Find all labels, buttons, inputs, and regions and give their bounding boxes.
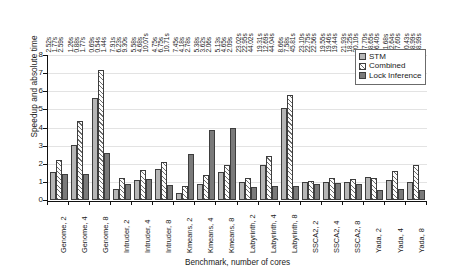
y-tick-label: 2 xyxy=(30,160,43,168)
bar-combined xyxy=(287,95,293,200)
bar-lock-inference xyxy=(314,184,320,200)
bar-lock-inference xyxy=(188,154,194,200)
category-label: Intruder, 4 xyxy=(144,220,151,253)
chart-container: Speedup and absolute time 2.52s1.77s2.59… xyxy=(0,0,475,279)
y-tick xyxy=(43,146,47,147)
bar-lock-inference xyxy=(62,174,68,200)
bar-lock-inference xyxy=(230,128,236,200)
category-label: SSCA2, 8 xyxy=(354,221,361,253)
time-label: 9.30s xyxy=(122,37,129,53)
category-label: Genome, 8 xyxy=(102,216,109,253)
y-tick xyxy=(43,55,47,56)
y-tick xyxy=(43,164,47,165)
bar-lock-inference xyxy=(209,130,215,200)
chart-legend: STM Combined Lock Inference xyxy=(355,49,426,85)
category-label: Intruder, 8 xyxy=(165,220,172,253)
y-tick-label: 5 xyxy=(30,105,43,113)
legend-item-lock-inference: Lock Inference xyxy=(359,71,421,81)
category-label: Yada, 2 xyxy=(375,228,382,253)
category-label: SSCA2, 2 xyxy=(312,221,319,253)
bar-group xyxy=(111,55,132,200)
legend-swatch-combined-icon xyxy=(359,63,366,70)
legend-item-combined: Combined xyxy=(359,62,421,72)
category-label: Labyrinth, 4 xyxy=(270,214,277,253)
bar-lock-inference xyxy=(167,185,173,200)
bar-group xyxy=(301,55,322,200)
category-label: SSCA2, 4 xyxy=(333,221,340,253)
bar-group xyxy=(216,55,237,200)
time-label: 10.71s xyxy=(164,34,171,53)
bar-lock-inference xyxy=(104,153,110,200)
legend-swatch-stm-icon xyxy=(359,53,366,60)
y-tick xyxy=(43,109,47,110)
category-label: Kmeans, 2 xyxy=(186,218,193,253)
y-tick-label: 4 xyxy=(30,124,43,132)
category-label: Yada, 8 xyxy=(418,228,425,253)
time-label: 2.09s xyxy=(227,37,234,53)
bar-group xyxy=(132,55,153,200)
bar-lock-inference xyxy=(251,187,257,200)
legend-label-combined: Combined xyxy=(369,62,405,70)
time-label: 1.44s xyxy=(101,37,108,53)
time-label: 45.81s xyxy=(290,34,297,53)
y-tick-label: 7 xyxy=(30,69,43,77)
time-label: 1.77s xyxy=(80,37,87,53)
bar-lock-inference xyxy=(335,183,341,200)
bar-group xyxy=(259,55,280,200)
y-tick-label: 3 xyxy=(30,142,43,150)
time-label: 2.59s xyxy=(59,37,66,53)
bar-group xyxy=(153,55,174,200)
bar-lock-inference xyxy=(293,186,299,201)
bar-group xyxy=(280,55,301,200)
time-label-row: 2.52s1.77s2.59s1.26s0.88s1.77s0.69s0.54s… xyxy=(47,0,427,55)
category-label: Kmeans, 8 xyxy=(228,218,235,253)
category-label: Yada, 4 xyxy=(397,228,404,253)
y-tick-label: 6 xyxy=(30,87,43,95)
bar-group xyxy=(322,55,343,200)
y-tick-label: 1 xyxy=(30,178,43,186)
bar-lock-inference xyxy=(146,179,152,200)
category-label: Genome, 2 xyxy=(60,216,67,253)
y-tick xyxy=(43,73,47,74)
bar-group xyxy=(69,55,90,200)
category-label: Labyrinth, 2 xyxy=(249,214,256,253)
bar-group xyxy=(90,55,111,200)
time-label: 10.07s xyxy=(143,34,150,53)
bar-lock-inference xyxy=(83,174,89,200)
legend-label-lock-inference: Lock Inference xyxy=(369,72,421,80)
bar-lock-inference xyxy=(356,184,362,200)
y-tick xyxy=(43,182,47,183)
category-label-row: Genome, 2Genome, 4Genome, 8Intruder, 2In… xyxy=(47,203,427,255)
bar-group xyxy=(174,55,195,200)
time-label: 44.04s xyxy=(269,34,276,53)
bar-group xyxy=(238,55,259,200)
time-label: 2.78s xyxy=(185,37,192,53)
bar-lock-inference xyxy=(377,190,383,201)
y-tick-label: 8 xyxy=(30,51,43,59)
legend-item-stm: STM xyxy=(359,52,421,62)
y-tick-label: 0 xyxy=(30,196,43,204)
time-label: 19.44s xyxy=(333,34,340,53)
category-label: Kmeans, 4 xyxy=(207,218,214,253)
legend-label-stm: STM xyxy=(369,53,386,61)
time-label: 2.06s xyxy=(206,37,213,53)
bar-lock-inference xyxy=(272,186,278,200)
time-label: 22.56s xyxy=(312,34,319,53)
y-tick xyxy=(43,128,47,129)
category-label: Genome, 4 xyxy=(81,216,88,253)
bar-group xyxy=(195,55,216,200)
legend-swatch-lock-inference-icon xyxy=(359,72,366,79)
bar-lock-inference xyxy=(125,184,131,200)
time-label: 44.02s xyxy=(248,34,255,53)
x-axis-title: Benchmark, number of cores xyxy=(0,258,475,267)
category-label: Labyrinth, 8 xyxy=(291,214,298,253)
category-label: Intruder, 2 xyxy=(123,220,130,253)
y-tick xyxy=(43,91,47,92)
bar-lock-inference xyxy=(398,189,404,200)
bar-lock-inference xyxy=(419,190,425,200)
bar-group xyxy=(48,55,69,200)
